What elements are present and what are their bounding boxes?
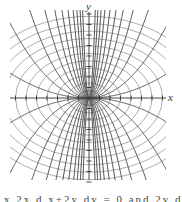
equation-caption-fragment: x 2x d x+2y dy = 0 and 2y dy xyxy=(4,193,182,202)
x-axis-label: x xyxy=(167,91,173,103)
y-axis-label: y xyxy=(85,0,91,12)
orthogonal-trajectories-diagram: y x xyxy=(0,0,182,202)
